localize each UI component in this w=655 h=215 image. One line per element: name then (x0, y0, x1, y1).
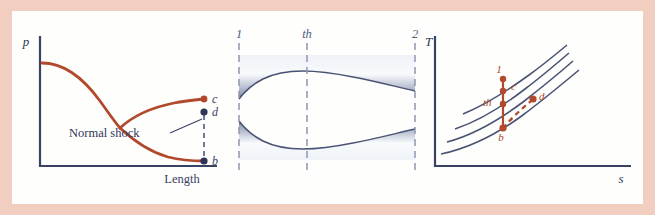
nozzle-upper-wall (239, 54, 415, 99)
ts-point-label-th: th (483, 96, 492, 108)
point-marker-d (200, 108, 207, 115)
ts-point-marker-th (500, 101, 506, 107)
ts-point-label-1: 1 (496, 63, 502, 75)
figure-frame: p c d b Normal shock Length (0, 0, 655, 215)
T-axis-label: T (425, 34, 433, 49)
ts-point-marker-1 (500, 76, 506, 82)
length-axis-label: Length (164, 172, 200, 186)
nozzle-bottom-mask (225, 160, 425, 204)
nozzle-panel: 1 th 2 (225, 11, 425, 204)
temperature-entropy-panel: 1 c th d b T s (425, 11, 643, 204)
pressure-vs-length-panel: p c d b Normal shock Length (12, 11, 222, 204)
s-axis-label: s (618, 171, 623, 186)
ts-point-label-d: d (539, 90, 545, 102)
point-marker-b (200, 157, 207, 164)
nozzle-lower-wall (239, 121, 415, 161)
ts-point-label-c: c (511, 80, 516, 92)
ts-point-marker-c (500, 88, 506, 94)
point-label-c: c (212, 92, 218, 106)
normal-shock-annotation: Normal shock (69, 126, 140, 140)
shock-process-dashed-path (503, 101, 531, 128)
isobar-curve-3 (447, 61, 573, 142)
nozzle-top-mask (225, 11, 425, 55)
station-label-2: 2 (412, 27, 418, 41)
ts-point-label-b: b (498, 131, 504, 143)
point-marker-c (201, 96, 208, 103)
station-label-th: th (302, 27, 312, 41)
p-axis-label: p (22, 34, 30, 49)
figure-canvas: p c d b Normal shock Length (12, 11, 643, 204)
point-label-d: d (212, 105, 219, 119)
ts-point-marker-d (529, 95, 536, 102)
station-label-1: 1 (236, 27, 242, 41)
pressure-main-curve (42, 63, 120, 128)
normal-shock-leader-line (170, 119, 202, 133)
point-label-b: b (212, 154, 218, 168)
